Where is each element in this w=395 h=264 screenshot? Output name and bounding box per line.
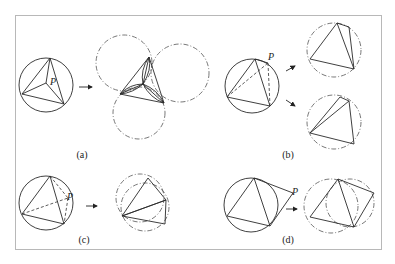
panel-b-arrow-down-icon (286, 100, 295, 106)
caption-d: (d) (282, 234, 294, 245)
panel-d-source-circle (224, 178, 293, 232)
panel-d-point-p: P (291, 186, 298, 197)
panel-b-point-p: P (267, 51, 274, 62)
panel-b-source-circle (225, 59, 279, 113)
panel-c: P (19, 174, 169, 231)
panel-c-point-p: P (66, 191, 73, 202)
panel-b-result-top (307, 23, 361, 77)
panel-a-point-p: P (49, 76, 56, 87)
panel-a: P (19, 35, 209, 139)
panel-b: P (225, 23, 361, 149)
panel-c-source-circle (19, 176, 73, 230)
caption-a: (a) (76, 149, 87, 160)
panel-a-result (96, 35, 209, 139)
geometry-diagram: P P (0, 0, 395, 264)
caption-b: (b) (282, 149, 294, 160)
panel-a-source-circle (19, 58, 73, 112)
panel-c-result (116, 174, 169, 231)
panel-b-arrow-up-icon (286, 66, 295, 71)
panel-b-result-bottom (307, 95, 361, 149)
panel-d-result (304, 179, 374, 233)
caption-c: (c) (78, 234, 89, 245)
panel-d: P (224, 178, 374, 233)
